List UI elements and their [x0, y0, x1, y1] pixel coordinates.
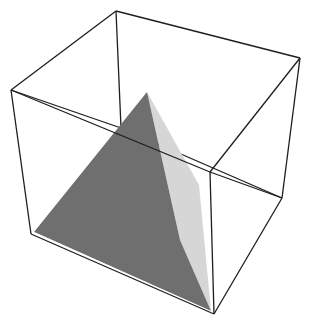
- cube-tetrahedron-diagram: [0, 0, 310, 327]
- diagram-canvas: [0, 0, 310, 327]
